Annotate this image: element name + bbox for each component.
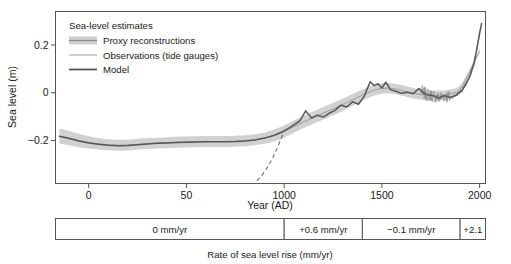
x-axis-title: Year (AD): [247, 199, 293, 211]
rate-table-caption: Rate of sea level rise (mm/yr): [207, 249, 332, 260]
legend-label-proxy-reconstructions: Proxy reconstructions: [103, 35, 195, 46]
legend-marker-proxy-reconstructions: [69, 37, 97, 45]
x-axis-tick-label: 2000: [468, 189, 492, 201]
rate-table-cell-label: +0.6 mm/yr: [299, 224, 348, 235]
legend-label-observations: Observations (tide gauges): [103, 50, 218, 61]
figure-root: 0.20−0.2 050100015002000 Sea level (m) Y…: [0, 0, 511, 264]
x-axis-ticks: 050100015002000: [86, 184, 492, 201]
legend: Sea-level estimates Proxy reconstruction…: [69, 20, 218, 75]
legend-title: Sea-level estimates: [69, 20, 153, 31]
x-axis-tick-label: 50: [181, 189, 193, 201]
legend-label-model: Model: [103, 64, 129, 75]
x-axis-tick-label: 1500: [370, 189, 394, 201]
y-axis-tick-label: 0: [43, 86, 49, 98]
rate-table-cell-label: +2.1: [463, 224, 482, 235]
x-axis-tick-label: 0: [86, 189, 92, 201]
sea-level-figure: 0.20−0.2 050100015002000 Sea level (m) Y…: [0, 0, 511, 264]
rate-of-sea-level-rise-table: 0 mm/yr+0.6 mm/yr−0.1 mm/yr+2.1: [56, 219, 486, 240]
y-axis-ticks: 0.20−0.2: [28, 39, 56, 147]
y-axis-tick-label: −0.2: [28, 134, 49, 146]
y-axis-title: Sea level (m): [6, 66, 18, 128]
rate-table-cell-label: −0.1 mm/yr: [387, 224, 436, 235]
rate-table-cell-label: 0 mm/yr: [153, 224, 188, 235]
y-axis-tick-label: 0.2: [34, 39, 49, 51]
